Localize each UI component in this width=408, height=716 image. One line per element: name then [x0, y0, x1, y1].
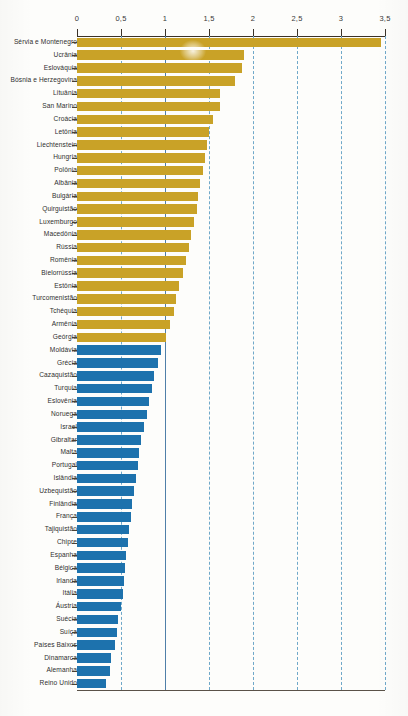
- plot-area: [77, 36, 385, 690]
- x-axis-tick-labels: 00,511,522,533,5: [0, 14, 408, 28]
- category-tickmark: [72, 350, 77, 351]
- category-tickmark: [72, 68, 77, 69]
- bar-row: [77, 89, 385, 98]
- bar-row: [77, 499, 385, 508]
- bar-row: [77, 63, 385, 72]
- category-tickmark: [72, 299, 77, 300]
- category-tickmark: [72, 119, 77, 120]
- category-tickmark: [72, 555, 77, 556]
- bar-uzbequist-o: [77, 486, 134, 495]
- category-tickmark: [72, 81, 77, 82]
- bar-cazaquist-o: [77, 371, 154, 380]
- bar-row: [77, 371, 385, 380]
- category-tickmark: [72, 671, 77, 672]
- x-tick-label-2_5: 2,5: [291, 14, 302, 23]
- category-label-s-rvia-e-montenegro: Sérvia e Montenegro: [14, 39, 77, 46]
- category-tickmark: [72, 530, 77, 531]
- category-tickmark: [72, 248, 77, 249]
- x-tick-label-1_5: 1,5: [203, 14, 214, 23]
- bar-row: [77, 435, 385, 444]
- category-tickmark: [72, 183, 77, 184]
- bar-irlanda: [77, 576, 124, 585]
- bar-bulg-ria: [77, 192, 198, 201]
- bar-row: [77, 281, 385, 290]
- bar-row: [77, 50, 385, 59]
- category-label-pa-ses-baixos: Países Baixos: [34, 642, 77, 649]
- bar-gr-cia: [77, 358, 158, 367]
- category-label-liechtenstein: Liechtenstein: [37, 142, 77, 149]
- x-tickmark: [77, 29, 78, 36]
- bar-row: [77, 230, 385, 239]
- bar-turcomenist-o: [77, 294, 176, 303]
- bar-row: [77, 217, 385, 226]
- bar-row: [77, 204, 385, 213]
- bar-row: [77, 384, 385, 393]
- bar-chipre: [77, 538, 128, 547]
- bar-row: [77, 422, 385, 431]
- category-tickmark: [72, 171, 77, 172]
- category-tickmark: [72, 684, 77, 685]
- bar-row: [77, 294, 385, 303]
- bar-quirguist-o: [77, 204, 197, 213]
- bar-reino-unido: [77, 679, 106, 688]
- x-tickmark: [385, 29, 386, 36]
- category-tickmark: [72, 273, 77, 274]
- category-tickmark: [72, 42, 77, 43]
- bar-san-marino: [77, 102, 220, 111]
- bar-hungria: [77, 153, 205, 162]
- bar-litu-nia: [77, 89, 220, 98]
- bar-mold-via: [77, 345, 161, 354]
- bar-tch-quia: [77, 307, 174, 316]
- bar-row: [77, 256, 385, 265]
- category-tickmark: [72, 453, 77, 454]
- category-tickmark: [72, 491, 77, 492]
- bar-row: [77, 345, 385, 354]
- category-tickmark: [72, 158, 77, 159]
- bar-row: [77, 102, 385, 111]
- bar-row: [77, 127, 385, 136]
- x-tick-label-1: 1: [163, 14, 167, 23]
- bar-row: [77, 448, 385, 457]
- bar-row: [77, 410, 385, 419]
- category-tickmark: [72, 466, 77, 467]
- bar-su-cia: [77, 615, 118, 624]
- category-tickmark: [72, 414, 77, 415]
- bar-arm-nia: [77, 320, 170, 329]
- category-tickmark: [72, 260, 77, 261]
- bar-pa-ses-baixos: [77, 640, 115, 649]
- bar-row: [77, 76, 385, 85]
- bar-row: [77, 589, 385, 598]
- category-tickmark: [72, 632, 77, 633]
- category-tickmark: [72, 581, 77, 582]
- bar-s-rvia-e-montenegro: [77, 38, 381, 47]
- bar-row: [77, 551, 385, 560]
- category-tickmark: [72, 607, 77, 608]
- x-tick-label-2: 2: [251, 14, 255, 23]
- category-label-turcomenist-o: Turcomenistão: [32, 295, 77, 302]
- bar-row: [77, 179, 385, 188]
- bar-liechtenstein: [77, 140, 207, 149]
- category-tickmark: [72, 235, 77, 236]
- bar-fran-a: [77, 512, 131, 521]
- bar-let-nia: [77, 127, 209, 136]
- category-tickmark: [72, 619, 77, 620]
- bar-row: [77, 307, 385, 316]
- category-tickmark: [72, 517, 77, 518]
- bar-row: [77, 640, 385, 649]
- bar-row: [77, 38, 385, 47]
- gridline: [385, 36, 386, 690]
- bar-row: [77, 115, 385, 124]
- category-tickmark: [72, 658, 77, 659]
- category-tickmark: [72, 286, 77, 287]
- x-tickmark: [209, 29, 210, 36]
- category-tickmark: [72, 55, 77, 56]
- bar-row: [77, 140, 385, 149]
- category-tickmark: [72, 504, 77, 505]
- bar-noruega: [77, 410, 147, 419]
- bar-cro-cia: [77, 115, 213, 124]
- category-tickmark: [72, 107, 77, 108]
- category-tickmark: [72, 376, 77, 377]
- category-tickmark: [72, 94, 77, 95]
- bar-row: [77, 153, 385, 162]
- figure-caption: [30, 702, 400, 714]
